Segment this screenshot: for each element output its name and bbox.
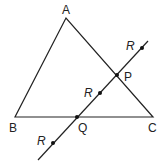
label-r-middle: R	[84, 86, 93, 100]
label-r-upper: R	[126, 39, 135, 53]
point-r-lower	[51, 141, 55, 145]
label-b: B	[9, 121, 17, 135]
point-r-upper	[140, 46, 144, 50]
label-c: C	[148, 121, 157, 135]
label-a: A	[62, 3, 70, 17]
label-p: P	[124, 70, 132, 84]
triangle-diagram: A B C P Q R R R	[0, 0, 165, 167]
triangle-abc	[15, 18, 153, 117]
point-p	[115, 73, 119, 77]
label-r-lower: R	[37, 134, 46, 148]
point-q	[75, 115, 79, 119]
label-q: Q	[78, 121, 87, 135]
point-r-middle	[98, 91, 102, 95]
